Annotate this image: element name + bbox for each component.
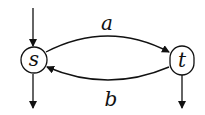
automaton-diagram: a b s t <box>0 0 205 115</box>
edge-label-b: b <box>105 87 118 111</box>
node-label-t: t <box>178 48 187 72</box>
node-label-s: s <box>29 47 39 71</box>
node-t: t <box>170 46 194 75</box>
edge-label-a: a <box>101 11 113 35</box>
edge-b: b <box>47 67 169 111</box>
edge-a: a <box>46 11 169 52</box>
node-s: s <box>21 47 47 73</box>
